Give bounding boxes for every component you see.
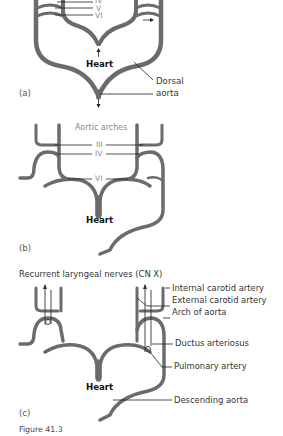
dorsal-label: Dorsal: [156, 77, 184, 86]
pulmonary-artery-label: Pulmonary artery: [174, 362, 247, 370]
aortic-arches-title: Aortic arches: [75, 124, 127, 132]
heart-label-a: Heart: [86, 60, 113, 69]
panel-b-vessels: [20, 125, 163, 254]
internal-carotid-label: Internal carotid artery: [172, 284, 264, 292]
figure-caption: Figure 41.3: [19, 426, 63, 434]
arch-label-vi-b: VI: [95, 175, 102, 183]
arch-label-iii: III: [96, 141, 103, 149]
heart-label-b: Heart: [86, 216, 113, 225]
ductus-arteriosus-label: Ductus arteriosus: [175, 339, 249, 347]
descending-aorta-label: Descending aorta: [174, 396, 248, 404]
panel-tag-c: (c): [19, 409, 30, 418]
panel-a-leaders: [55, 2, 154, 108]
heart-label-c: Heart: [86, 383, 113, 392]
panel-tag-b: (b): [19, 244, 31, 253]
arch-label-iv-b: IV: [95, 150, 102, 158]
panel-tag-a: (a): [19, 89, 31, 98]
arch-of-aorta-label: Arch of aorta: [172, 308, 226, 316]
panel-c-nerves: [43, 284, 151, 352]
aorta-label: aorta: [156, 89, 179, 98]
arch-label-vi: VI: [95, 12, 102, 20]
recurrent-laryngeal-label: Recurrent laryngeal nerves (CN X): [19, 270, 162, 278]
external-carotid-label: External carotid artery: [172, 296, 267, 304]
